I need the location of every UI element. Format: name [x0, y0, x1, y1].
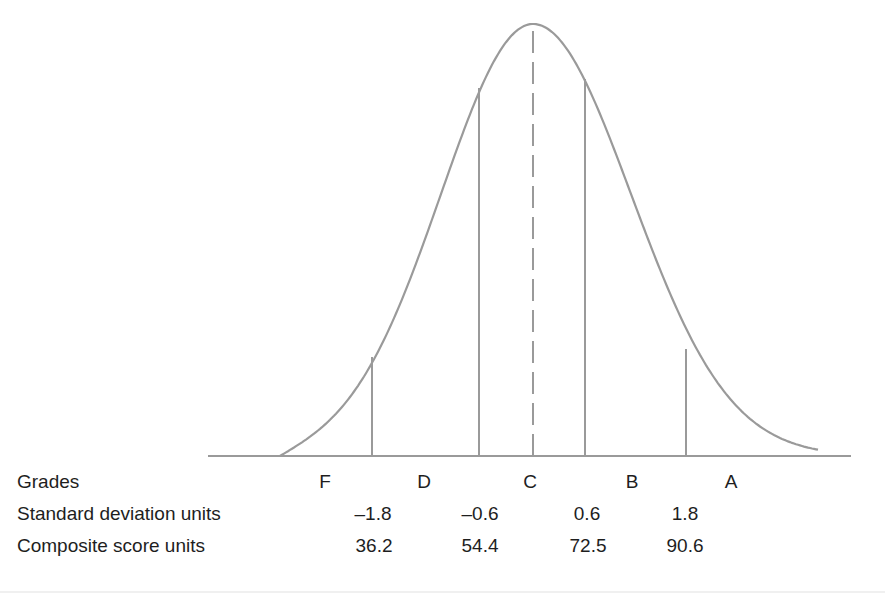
sd-value: –1.8 [355, 503, 392, 525]
grade-d: D [417, 471, 431, 493]
composite-value: 36.2 [356, 535, 393, 557]
sd-value: 0.6 [574, 503, 600, 525]
grade-a: A [725, 471, 738, 493]
grades-row-label: Grades [17, 471, 79, 493]
sd-row-label: Standard deviation units [17, 503, 221, 525]
sd-value: –0.6 [462, 503, 499, 525]
composite-value: 72.5 [570, 535, 607, 557]
grade-b: B [626, 471, 639, 493]
bottom-divider [0, 591, 885, 593]
composite-value: 54.4 [462, 535, 499, 557]
composite-row-label: Composite score units [17, 535, 205, 557]
bell-curve [280, 24, 818, 456]
grade-f: F [319, 471, 331, 493]
sd-value: 1.8 [672, 503, 698, 525]
grade-c: C [523, 471, 537, 493]
composite-value: 90.6 [667, 535, 704, 557]
